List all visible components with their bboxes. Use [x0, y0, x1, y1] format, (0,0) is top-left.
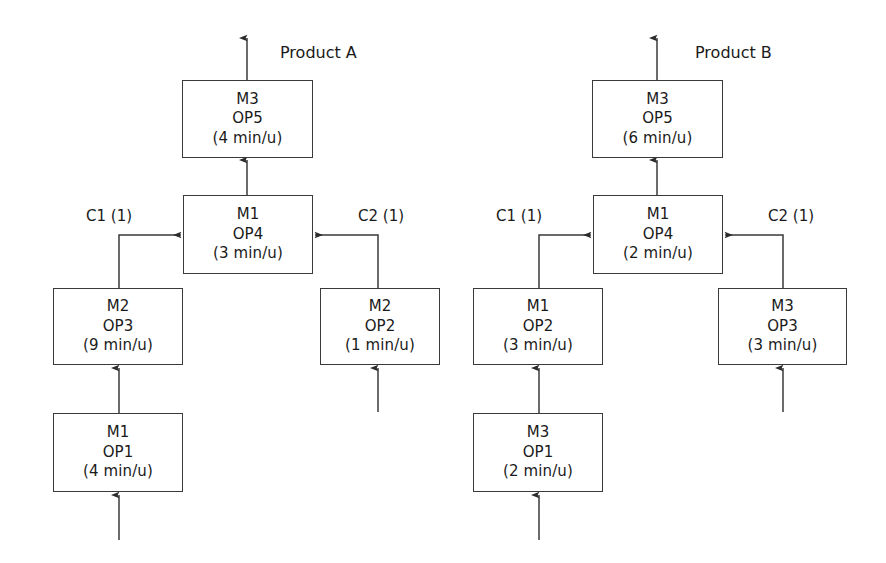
product-a-label: Product A — [280, 43, 357, 62]
arrow-a-op3-to-op4 — [119, 235, 181, 288]
operation-node-a-op5: M3 OP5 (4 min/u) — [182, 80, 313, 158]
operation-node-a-op2: M2 OP2 (1 min/u) — [320, 288, 440, 365]
node-time: (6 min/u) — [623, 129, 693, 149]
node-time: (3 min/u) — [748, 336, 818, 356]
node-time: (4 min/u) — [213, 129, 283, 149]
node-time: (2 min/u) — [623, 244, 693, 264]
node-time: (3 min/u) — [213, 244, 283, 264]
node-operation: OP2 — [365, 317, 396, 337]
node-machine: M1 — [527, 297, 550, 317]
component-label-a-c1: C1 (1) — [86, 207, 132, 225]
node-machine: M3 — [527, 423, 550, 443]
node-operation: OP4 — [643, 225, 674, 245]
node-operation: OP1 — [103, 443, 134, 463]
component-label-a-c2: C2 (1) — [358, 207, 404, 225]
node-time: (4 min/u) — [83, 462, 153, 482]
node-operation: OP5 — [642, 109, 673, 129]
operation-node-b-op4: M1 OP4 (2 min/u) — [593, 195, 723, 274]
routing-diagram-canvas: Product A C1 (1) C2 (1) M3 OP5 (4 min/u)… — [0, 0, 886, 563]
component-label-b-c1: C1 (1) — [496, 207, 542, 225]
node-time: (3 min/u) — [503, 336, 573, 356]
node-machine: M3 — [771, 297, 794, 317]
node-operation: OP5 — [232, 109, 263, 129]
node-operation: OP1 — [523, 443, 554, 463]
node-operation: OP3 — [103, 317, 134, 337]
component-label-b-c2: C2 (1) — [768, 207, 814, 225]
node-operation: OP4 — [233, 225, 264, 245]
node-machine: M1 — [107, 423, 130, 443]
operation-node-a-op1: M1 OP1 (4 min/u) — [53, 413, 183, 492]
node-time: (2 min/u) — [503, 462, 573, 482]
node-machine: M2 — [369, 297, 392, 317]
node-time: (1 min/u) — [345, 336, 415, 356]
operation-node-b-op2: M1 OP2 (3 min/u) — [473, 288, 603, 365]
arrow-b-op2-to-op4 — [539, 235, 591, 288]
node-operation: OP3 — [767, 317, 798, 337]
node-machine: M1 — [237, 205, 260, 225]
operation-node-b-op5: M3 OP5 (6 min/u) — [592, 80, 723, 158]
node-operation: OP2 — [523, 317, 554, 337]
product-b-label: Product B — [695, 43, 772, 62]
operation-node-a-op4: M1 OP4 (3 min/u) — [183, 195, 313, 274]
arrow-a-op2-to-op4 — [315, 235, 378, 288]
arrow-b-op3-to-op4 — [725, 235, 783, 288]
node-machine: M3 — [236, 90, 259, 110]
operation-node-b-op1: M3 OP1 (2 min/u) — [473, 413, 603, 492]
operation-node-a-op3: M2 OP3 (9 min/u) — [53, 288, 183, 365]
operation-node-b-op3: M3 OP3 (3 min/u) — [718, 288, 847, 365]
node-time: (9 min/u) — [83, 336, 153, 356]
node-machine: M2 — [107, 297, 130, 317]
node-machine: M1 — [647, 205, 670, 225]
node-machine: M3 — [646, 90, 669, 110]
